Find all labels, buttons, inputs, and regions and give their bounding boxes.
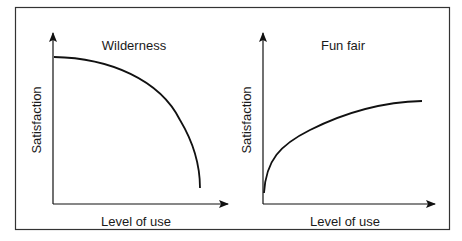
frame	[16, 8, 450, 230]
chart-title: Fun fair	[321, 38, 366, 53]
figure: Wilderness Level of use Satisfaction Fun…	[0, 0, 462, 241]
y-axis-label: Satisfaction	[239, 86, 254, 153]
chart-fun-fair: Fun fair Level of use Satisfaction	[239, 33, 435, 229]
curve	[264, 101, 422, 193]
y-axis-label: Satisfaction	[29, 86, 44, 153]
x-axis-label: Level of use	[101, 214, 171, 229]
chart-title: Wilderness	[102, 38, 167, 53]
curve	[54, 57, 200, 188]
chart-wilderness: Wilderness Level of use Satisfaction	[29, 33, 228, 229]
x-axis-label: Level of use	[310, 214, 380, 229]
